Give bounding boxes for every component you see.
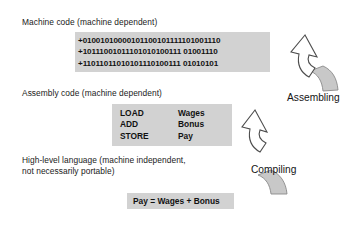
- high-level-language-label-line-2: not necessarily portable): [22, 166, 115, 177]
- compiling-label: Compiling: [251, 164, 296, 176]
- compiling-arrow-icon: [240, 104, 320, 194]
- assembling-label: Assembling: [287, 92, 340, 104]
- assembly-operand: Pay: [178, 131, 193, 142]
- assembly-opcode: ADD: [120, 119, 178, 130]
- high-level-language-label-line-1: High-level language (machine independent…: [22, 155, 186, 166]
- assembly-row: LOAD Wages: [120, 108, 232, 119]
- machine-code-line-1: +01001010000101100101111101001110: [78, 35, 270, 46]
- assembly-code-block: LOAD Wages ADD Bonus STORE Pay: [112, 104, 232, 146]
- high-level-code-block: Pay = Wages + Bonus: [127, 193, 234, 209]
- machine-code-line-2: +10111001011101010100111 01001110: [78, 46, 270, 57]
- assembly-row: ADD Bonus: [120, 119, 232, 130]
- machine-code-label: Machine code (machine dependent): [22, 17, 157, 28]
- diagram-canvas: Machine code (machine dependent) +010010…: [0, 0, 364, 225]
- high-level-expression: Pay = Wages + Bonus: [133, 196, 234, 207]
- assembly-opcode: STORE: [120, 131, 178, 142]
- machine-code-line-3: +11011011010101110100111 01010101: [78, 58, 270, 69]
- assembly-opcode: LOAD: [120, 108, 178, 119]
- assembly-operand: Bonus: [178, 119, 204, 130]
- machine-code-block: +01001010000101100101111101001110 +10111…: [75, 32, 270, 72]
- assembly-operand: Wages: [178, 108, 205, 119]
- assembly-code-label: Assembly code (machine dependent): [22, 88, 162, 99]
- assembly-row: STORE Pay: [120, 131, 232, 142]
